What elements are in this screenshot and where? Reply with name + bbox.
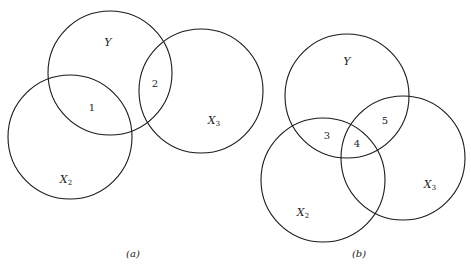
panel-b: YX2X3345(b) bbox=[261, 34, 465, 259]
set-label-x3: X3 bbox=[423, 178, 436, 192]
set-label-y: Y bbox=[343, 55, 352, 68]
set-label-y: Y bbox=[104, 36, 113, 49]
region-label-4: 4 bbox=[354, 138, 360, 149]
circle-y bbox=[285, 34, 409, 158]
set-label-x2: X2 bbox=[296, 206, 309, 220]
panel-a: YX2X312(a) bbox=[8, 11, 263, 259]
panel-caption: (a) bbox=[126, 248, 140, 259]
set-label-x3: X3 bbox=[207, 114, 220, 128]
region-label-3: 3 bbox=[324, 130, 330, 141]
circle-x3 bbox=[341, 96, 465, 220]
circle-y bbox=[48, 11, 172, 135]
panel-caption: (b) bbox=[352, 248, 366, 259]
region-label-1: 1 bbox=[89, 102, 95, 113]
venn-diagram-canvas: YX2X312(a)YX2X3345(b) bbox=[0, 0, 471, 267]
set-label-x2: X2 bbox=[59, 173, 72, 187]
region-label-2: 2 bbox=[152, 78, 158, 89]
region-label-5: 5 bbox=[382, 115, 388, 126]
circle-x3 bbox=[139, 29, 263, 153]
